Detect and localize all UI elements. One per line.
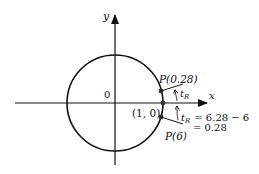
tR-upper-label: tR bbox=[180, 88, 190, 101]
label-p028: P(0.28) bbox=[158, 73, 198, 85]
equation-result: = 0.28 bbox=[193, 122, 227, 133]
label-p6: P(6) bbox=[164, 130, 187, 142]
arc-arrow-upper bbox=[175, 90, 177, 101]
label-1-0: (1, 0) bbox=[132, 107, 160, 119]
origin-label: 0 bbox=[104, 89, 110, 100]
arc-arrow-lower bbox=[177, 106, 178, 120]
x-axis-label: x bbox=[209, 90, 215, 101]
y-axis-label: y bbox=[102, 10, 110, 23]
leader-line-p6 bbox=[161, 117, 183, 124]
unit-circle-diagram: y x 0 P(0.28) (1, 0) P(6) tR tR= 6.28 − … bbox=[0, 0, 259, 174]
point-1-0 bbox=[161, 101, 166, 106]
